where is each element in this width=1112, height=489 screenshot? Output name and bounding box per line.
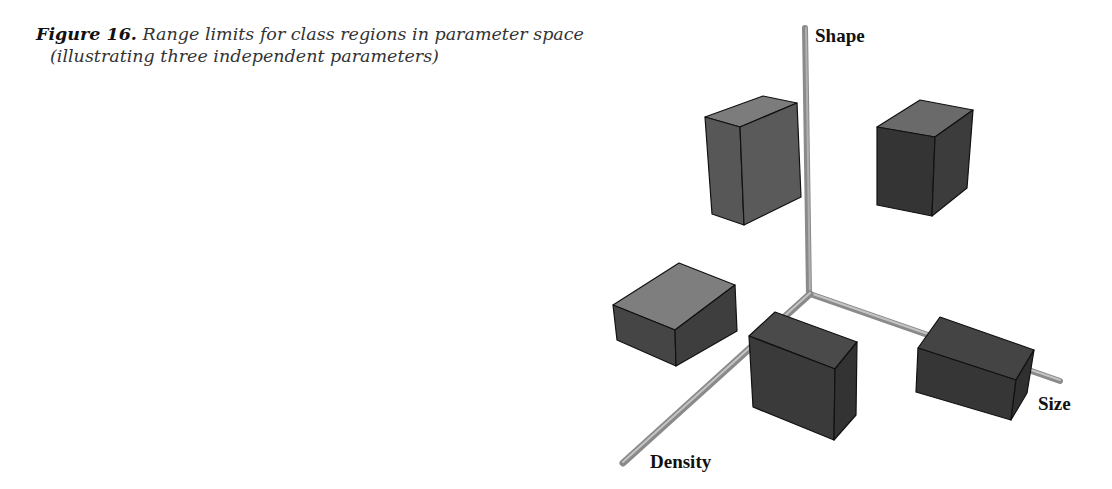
class-region-upper-left	[705, 96, 801, 225]
class-region-on-size-axis	[916, 317, 1034, 420]
class-region-upper-right	[877, 100, 973, 216]
class-region-front	[749, 312, 857, 440]
shape-axis-label: Shape	[815, 25, 865, 47]
density-axis-label: Density	[650, 451, 711, 473]
class-region-lower-left	[613, 263, 737, 366]
parameter-space-diagram	[0, 0, 1112, 489]
size-axis-label: Size	[1038, 393, 1071, 415]
shape-axis	[805, 28, 810, 294]
